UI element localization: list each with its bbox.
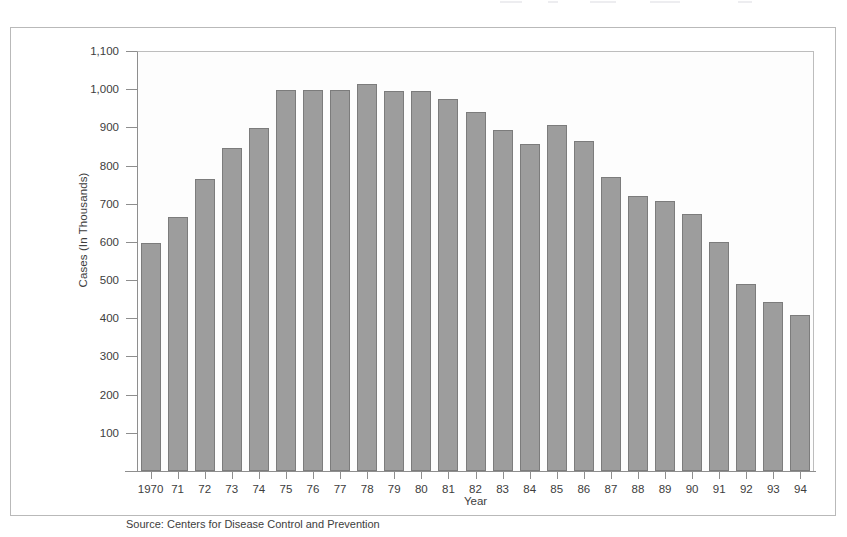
x-tick-label: 1970 — [138, 483, 164, 495]
x-tick — [719, 471, 720, 479]
x-tick — [800, 471, 801, 479]
x-tick — [692, 471, 693, 479]
x-tick-label: 92 — [740, 483, 753, 495]
y-tick: 200 — [126, 395, 137, 396]
bar — [303, 90, 323, 471]
x-tick-label: 75 — [280, 483, 293, 495]
x-tick-label: 87 — [604, 483, 617, 495]
source-note: Source: Centers for Disease Control and … — [126, 518, 380, 530]
x-tick-label: 82 — [469, 483, 482, 495]
bar — [438, 99, 458, 471]
y-tick-label: 500 — [100, 274, 119, 286]
y-tick-label: 800 — [100, 160, 119, 172]
x-tick-label: 91 — [713, 483, 726, 495]
bar — [168, 217, 188, 471]
x-tick-label: 76 — [307, 483, 320, 495]
y-tick: 300 — [126, 356, 137, 357]
x-tick-label: 78 — [361, 483, 374, 495]
x-tick-label: 71 — [171, 483, 184, 495]
y-tick: 1,000 — [126, 89, 137, 90]
x-tick — [584, 471, 585, 479]
x-tick-label: 93 — [767, 483, 780, 495]
bar — [195, 179, 215, 471]
bar — [709, 242, 729, 471]
y-tick-label: 100 — [100, 427, 119, 439]
x-tick — [340, 471, 341, 479]
y-tick: 600 — [126, 242, 137, 243]
bar — [736, 284, 756, 471]
y-tick: 400 — [126, 318, 137, 319]
x-tick-label: 90 — [686, 483, 699, 495]
x-tick — [773, 471, 774, 479]
x-tick — [665, 471, 666, 479]
chart-figure-frame: Cases (In Thousands) 1,1001,000900800700… — [10, 27, 836, 516]
y-tick: 900 — [126, 127, 137, 128]
x-tick — [286, 471, 287, 479]
x-tick-label: 79 — [388, 483, 401, 495]
x-tick — [394, 471, 395, 479]
bar — [574, 141, 594, 471]
bar — [141, 243, 161, 471]
x-tick — [313, 471, 314, 479]
x-tick — [503, 471, 504, 479]
y-tick-label: 1,100 — [90, 45, 119, 57]
x-tick — [259, 471, 260, 479]
y-tick-label: 900 — [100, 121, 119, 133]
x-tick-label: 88 — [632, 483, 645, 495]
y-axis-title: Cases (In Thousands) — [77, 150, 89, 310]
bar — [222, 148, 242, 471]
x-tick — [448, 471, 449, 479]
bar — [384, 91, 404, 471]
x-tick-label: 73 — [225, 483, 238, 495]
y-tick: 500 — [126, 280, 137, 281]
x-tick-label: 72 — [198, 483, 211, 495]
bar — [601, 177, 621, 471]
bar — [411, 91, 431, 471]
y-tick-label: 700 — [100, 198, 119, 210]
y-tick-label: 600 — [100, 236, 119, 248]
bar — [682, 214, 702, 471]
x-tick — [557, 471, 558, 479]
x-tick — [421, 471, 422, 479]
x-tick-label: 86 — [577, 483, 590, 495]
bar — [547, 125, 567, 471]
bar — [655, 201, 675, 471]
x-tick — [638, 471, 639, 479]
x-tick — [232, 471, 233, 479]
bar — [763, 302, 783, 471]
bar — [466, 112, 486, 471]
x-tick-label: 83 — [496, 483, 509, 495]
bar — [628, 196, 648, 471]
bar — [520, 144, 540, 471]
x-tick-label: 94 — [794, 483, 807, 495]
x-tick-label: 74 — [252, 483, 265, 495]
plot-area: 1,1001,000900800700600500400300200100 19… — [137, 51, 814, 471]
y-tick-label: 400 — [100, 312, 119, 324]
x-tick-label: 85 — [550, 483, 563, 495]
y-tick-label: 300 — [100, 350, 119, 362]
y-tick: 700 — [126, 204, 137, 205]
x-tick-label: 81 — [442, 483, 455, 495]
scan-artifacts — [0, 0, 847, 14]
y-tick: 800 — [126, 166, 137, 167]
x-axis-title: Year — [137, 495, 814, 507]
x-tick — [367, 471, 368, 479]
x-tick-label: 77 — [334, 483, 347, 495]
bar — [357, 84, 377, 471]
y-tick: 100 — [126, 433, 137, 434]
x-tick — [746, 471, 747, 479]
bar — [493, 130, 513, 471]
bar — [790, 315, 810, 471]
x-tick — [476, 471, 477, 479]
y-tick-label: 200 — [100, 389, 119, 401]
bar — [276, 90, 296, 471]
y-tick: 1,100 — [126, 51, 137, 52]
x-tick — [151, 471, 152, 479]
x-axis-line — [125, 471, 816, 472]
x-tick-label: 89 — [659, 483, 672, 495]
x-tick — [178, 471, 179, 479]
x-tick — [530, 471, 531, 479]
y-tick-label: 1,000 — [90, 83, 119, 95]
x-tick — [205, 471, 206, 479]
x-tick-label: 84 — [523, 483, 536, 495]
